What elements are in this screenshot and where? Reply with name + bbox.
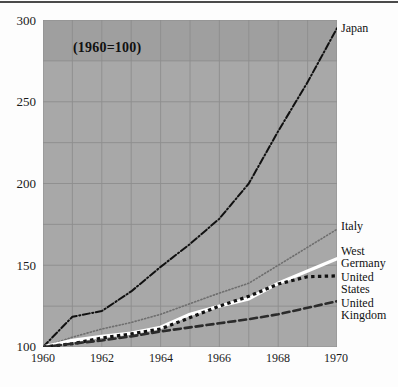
series-label-italy: Italy: [341, 221, 363, 233]
y-tick-200: 200: [2, 176, 36, 192]
header-rule: [0, 1, 398, 3]
series-lines: [43, 20, 337, 347]
y-tick-150: 150: [2, 258, 36, 274]
plot-area: [43, 20, 337, 347]
x-tick-1966: 1966: [197, 351, 241, 366]
base-year-annotation: (1960=100): [73, 40, 141, 56]
x-tick-1968: 1968: [256, 351, 300, 366]
series-line-japan: [43, 28, 337, 347]
series-label-japan: Japan: [341, 23, 368, 35]
x-tick-1962: 1962: [80, 351, 124, 366]
series-label-united-states: United States: [341, 272, 374, 295]
series-line-italy: [43, 229, 337, 347]
series-label-west-germany: West Germany: [341, 246, 386, 269]
x-tick-1964: 1964: [139, 351, 183, 366]
series-label-united-kingdom: United Kingdom: [341, 298, 386, 321]
y-tick-300: 300: [2, 13, 36, 29]
x-tick-1970: 1970: [314, 351, 358, 366]
x-tick-1960: 1960: [21, 351, 65, 366]
y-tick-250: 250: [2, 94, 36, 110]
series-line-united-kingdom: [43, 301, 337, 347]
chart-figure: 300 250 200 150 100 1960 1962 1964 1966 …: [0, 0, 398, 387]
